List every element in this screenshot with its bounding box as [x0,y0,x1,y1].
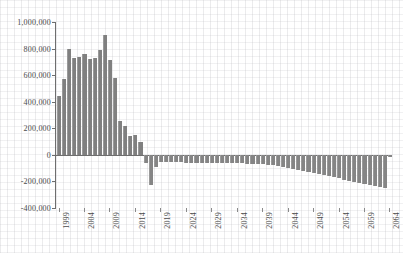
bar [98,50,102,155]
chart-container: 1,000,000800,000600,000400,000200,0000-2… [0,0,403,253]
bar [72,58,76,155]
x-tick-mark [313,208,314,212]
x-tick-mark [109,208,110,212]
bar [245,155,249,164]
bar [189,155,193,163]
y-tick-label: 1,000,000 [17,18,51,27]
y-tick-mark [52,128,56,129]
bar [159,155,163,162]
x-tick-label: 2044 [291,212,300,229]
x-tick-label: 2014 [138,212,147,229]
bar [184,155,188,163]
bar [322,155,326,175]
plot-area: 1,000,000800,000600,000400,000200,0000-2… [56,22,392,208]
bar [312,155,316,173]
x-tick-label: 2049 [316,212,325,229]
bar [93,58,97,155]
bar [77,57,81,155]
x-tick-label: 2034 [240,212,249,229]
x-tick-label: 2054 [342,212,351,229]
bar [250,155,254,164]
bar [128,136,132,155]
bar [352,155,356,182]
y-tick-mark [52,102,56,103]
x-tick-mark [186,208,187,212]
x-tick-mark [262,208,263,212]
bar [108,60,112,155]
bar [357,155,361,183]
bar [342,155,346,180]
bar [281,155,285,167]
bar [62,79,66,155]
y-tick-label: 200,000 [24,124,51,133]
bar [200,155,204,163]
bar [138,142,142,155]
y-tick-mark [52,49,56,50]
bar [215,155,219,163]
x-tick-label: 1999 [62,212,71,229]
y-tick-mark [52,75,56,76]
x-tick-label: 2039 [265,212,274,229]
bar [261,155,265,164]
bar [327,155,331,177]
bar [225,155,229,163]
x-tick-label: 2009 [112,212,121,229]
bar [154,155,158,167]
x-tick-mark [84,208,85,212]
bar [388,155,392,157]
bar [373,155,377,186]
bar [347,155,351,181]
x-tick-mark [339,208,340,212]
bar [317,155,321,174]
bar [164,155,168,162]
x-tick-label: 2024 [189,212,198,229]
y-tick-label: 400,000 [24,97,51,106]
y-tick-mark [52,208,56,209]
bar [57,96,61,154]
bar [337,155,341,179]
x-tick-label: 2004 [87,212,96,229]
bar [276,155,280,166]
bar [103,35,107,155]
bar [113,78,117,155]
x-tick-label: 2059 [367,212,376,229]
bar [383,155,387,188]
bar [210,155,214,163]
bar [123,126,127,155]
bar [67,49,71,155]
y-tick-label: 600,000 [24,71,51,80]
y-axis-line [55,22,56,208]
bar [286,155,290,168]
bar [133,135,137,155]
x-tick-label: 2019 [163,212,172,229]
bar [256,155,260,164]
bar [194,155,198,163]
bar [235,155,239,164]
x-tick-mark [160,208,161,212]
x-tick-mark [288,208,289,212]
bar [332,155,336,178]
x-tick-label: 2029 [214,212,223,229]
bar [291,155,295,169]
bar [144,155,148,163]
x-tick-mark [59,208,60,212]
y-tick-label: 800,000 [24,44,51,53]
bar [205,155,209,163]
bar [118,121,122,155]
y-tick-label: -400,000 [21,204,51,213]
bar [149,155,153,186]
y-tick-mark [52,181,56,182]
x-tick-mark [135,208,136,212]
y-tick-mark [52,22,56,23]
x-tick-label: 2064 [392,212,401,229]
y-tick-mark [52,155,56,156]
bar [240,155,244,164]
y-tick-label: 0 [47,150,51,159]
bar [362,155,366,184]
bar [271,155,275,166]
bar [301,155,305,171]
bar [230,155,234,164]
bar [88,59,92,155]
bar [220,155,224,163]
bar [82,54,86,155]
